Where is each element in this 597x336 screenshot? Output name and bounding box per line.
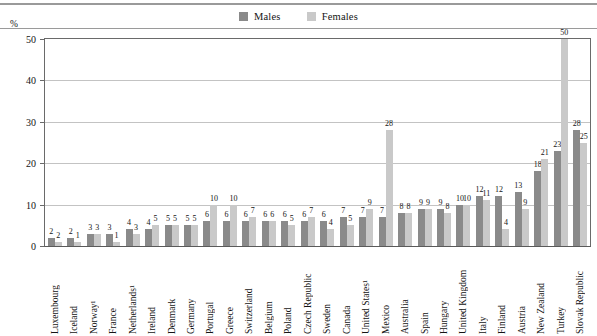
bar-group[interactable]: 31 — [103, 39, 122, 246]
bar-males[interactable]: 10 — [456, 205, 463, 246]
y-axis: 01020304050 — [0, 38, 40, 247]
bar-males[interactable]: 7 — [379, 217, 386, 246]
y-tick-label: 40 — [26, 75, 36, 86]
bar-group[interactable]: 67 — [298, 39, 317, 246]
bar-males[interactable]: 6 — [242, 221, 249, 246]
bar-females[interactable]: 28 — [386, 130, 393, 246]
bar-females[interactable]: 4 — [327, 229, 334, 246]
bar-value-label: 5 — [185, 214, 189, 223]
bar-males[interactable]: 6 — [262, 221, 269, 246]
bar-males[interactable]: 4 — [145, 229, 152, 246]
bar-group[interactable]: 65 — [279, 39, 298, 246]
bar-males[interactable]: 23 — [554, 151, 561, 246]
x-tick-label: Finland — [497, 248, 507, 334]
bar-females[interactable]: 6 — [269, 221, 276, 246]
bar-group[interactable]: 33 — [84, 39, 103, 246]
x-tick-label: Greece — [225, 248, 235, 334]
bar-males[interactable]: 6 — [320, 221, 327, 246]
legend-label-females: Females — [322, 11, 358, 22]
bar-group[interactable]: 610 — [220, 39, 239, 246]
bar-males[interactable]: 3 — [87, 234, 94, 246]
bar-males[interactable]: 9 — [418, 209, 425, 246]
bar-group[interactable]: 99 — [415, 39, 434, 246]
bar-males[interactable]: 7 — [340, 217, 347, 246]
bar-group[interactable]: 1010 — [454, 39, 473, 246]
bar-males[interactable]: 8 — [398, 213, 405, 246]
bar-group[interactable]: 124 — [493, 39, 512, 246]
bar-females[interactable]: 7 — [249, 217, 256, 246]
bar-group[interactable]: 2350 — [551, 39, 570, 246]
x-tick-label: Hungary — [439, 248, 449, 334]
bar-males[interactable]: 6 — [203, 221, 210, 246]
bar-group[interactable]: 66 — [259, 39, 278, 246]
bar-males[interactable]: 28 — [573, 130, 580, 246]
bar-males[interactable]: 12 — [495, 196, 502, 246]
bar-males[interactable]: 18 — [534, 171, 541, 246]
bar-males[interactable]: 6 — [223, 221, 230, 246]
bar-males[interactable]: 7 — [359, 217, 366, 246]
bar-group[interactable]: 21 — [64, 39, 83, 246]
bar-value-label: 21 — [541, 148, 549, 157]
bar-males[interactable]: 6 — [301, 221, 308, 246]
bar-group[interactable]: 67 — [240, 39, 259, 246]
bar-females[interactable]: 21 — [541, 159, 548, 246]
bar-value-label: 1 — [76, 231, 80, 240]
bar-group[interactable]: 55 — [162, 39, 181, 246]
bar-males[interactable]: 13 — [515, 192, 522, 246]
bar-males[interactable]: 5 — [165, 225, 172, 246]
x-axis-labels: LuxembourgIcelandNorway¹FranceNetherland… — [45, 248, 590, 336]
bar-females[interactable]: 5 — [191, 225, 198, 246]
bar-group[interactable]: 88 — [395, 39, 414, 246]
bar-females[interactable]: 9 — [522, 209, 529, 246]
bar-group[interactable]: 55 — [181, 39, 200, 246]
bar-males[interactable]: 2 — [48, 238, 55, 246]
bar-group[interactable]: 139 — [512, 39, 531, 246]
bar-group[interactable]: 610 — [201, 39, 220, 246]
bar-group[interactable]: 43 — [123, 39, 142, 246]
bar-group[interactable]: 98 — [434, 39, 453, 246]
bar-group[interactable]: 45 — [142, 39, 161, 246]
bar-females[interactable]: 25 — [580, 143, 587, 247]
bar-females[interactable]: 1 — [113, 242, 120, 246]
bar-group[interactable]: 64 — [318, 39, 337, 246]
bar-males[interactable]: 6 — [281, 221, 288, 246]
bar-females[interactable]: 4 — [502, 229, 509, 246]
bar-males[interactable]: 12 — [476, 196, 483, 246]
chart-legend: Males Females — [0, 6, 597, 27]
bar-females[interactable]: 11 — [483, 200, 490, 246]
bar-group[interactable]: 22 — [45, 39, 64, 246]
bar-females[interactable]: 7 — [308, 217, 315, 246]
bar-males[interactable]: 5 — [184, 225, 191, 246]
bar-females[interactable]: 5 — [288, 225, 295, 246]
bar-males[interactable]: 9 — [437, 209, 444, 246]
bar-females[interactable]: 9 — [366, 209, 373, 246]
bar-females[interactable]: 5 — [347, 225, 354, 246]
bar-females[interactable]: 2 — [55, 242, 62, 246]
bar-group[interactable]: 728 — [376, 39, 395, 246]
bar-females[interactable]: 5 — [172, 225, 179, 246]
bar-group[interactable]: 1211 — [473, 39, 492, 246]
bar-group[interactable]: 1821 — [532, 39, 551, 246]
bar-females[interactable]: 3 — [94, 234, 101, 246]
bar-value-label: 28 — [385, 119, 393, 128]
bar-value-label: 13 — [514, 181, 522, 190]
bar-females[interactable]: 10 — [463, 205, 470, 246]
bar-females[interactable]: 50 — [561, 39, 568, 246]
bar-females[interactable]: 8 — [444, 213, 451, 246]
bar-females[interactable]: 10 — [210, 205, 217, 246]
bar-females[interactable]: 10 — [230, 205, 237, 246]
bar-males[interactable]: 4 — [126, 229, 133, 246]
bar-females[interactable]: 8 — [405, 213, 412, 246]
bar-males[interactable]: 3 — [106, 234, 113, 246]
bar-males[interactable]: 2 — [67, 238, 74, 246]
bar-group[interactable]: 75 — [337, 39, 356, 246]
y-tick-mark — [40, 163, 44, 164]
bar-females[interactable]: 1 — [74, 242, 81, 246]
bar-group[interactable]: 2825 — [571, 39, 590, 246]
bar-value-label: 10 — [229, 194, 237, 203]
bar-value-label: 2 — [49, 227, 53, 236]
bar-group[interactable]: 79 — [356, 39, 375, 246]
bar-females[interactable]: 3 — [133, 234, 140, 246]
bar-females[interactable]: 9 — [425, 209, 432, 246]
bar-females[interactable]: 5 — [152, 225, 159, 246]
